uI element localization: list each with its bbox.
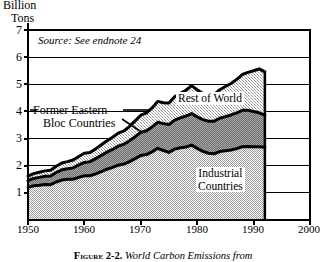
series-label-rest-of-world: Rest of World [176,92,244,105]
figure-caption-text: World Carbon Emissions from [125,250,252,261]
series-label-former-eastern-bloc: Former Eastern Bloc Countries [33,104,115,130]
series-label-former-eastern-line2: Bloc Countries [33,117,115,130]
series-label-industrial-line2: Countries [198,180,243,193]
series-label-industrial-line1: Industrial [198,167,243,180]
source-note: Source: See endnote 24 [38,34,141,46]
series-label-industrial-countries: Industrial Countries [196,167,245,192]
chart-container: Billion Tons 7 6 5 4 3 2 1 1950 1960 197… [0,0,326,262]
figure-caption: Figure 2-2. World Carbon Emissions from [0,250,326,261]
figure-number: Figure 2-2. [74,250,123,261]
